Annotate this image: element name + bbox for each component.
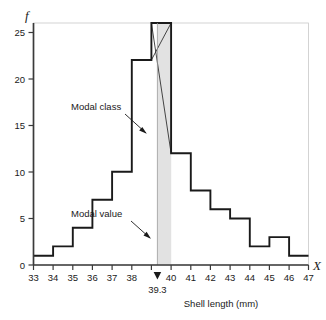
x-tick-41: 41 bbox=[186, 272, 197, 283]
x-tick-47: 47 bbox=[303, 272, 314, 283]
y-tick-20: 20 bbox=[14, 74, 25, 85]
x-axis-title: Shell length (mm) bbox=[184, 298, 258, 309]
y-tick-10: 10 bbox=[14, 167, 25, 178]
modal-value-label: Modal value bbox=[71, 208, 122, 219]
modal-value-tick-label: 39.3 bbox=[148, 284, 167, 295]
x-tick-35: 35 bbox=[68, 272, 79, 283]
y-tick-5: 5 bbox=[20, 213, 25, 224]
y-tick-25: 25 bbox=[14, 27, 25, 38]
x-tick-43: 43 bbox=[225, 272, 236, 283]
x-tick-37: 37 bbox=[107, 272, 118, 283]
x-tick-46: 46 bbox=[284, 272, 295, 283]
modal-band-shading bbox=[157, 23, 171, 265]
histogram-figure: 0 5 10 15 20 25 f 33 34 35 36 37 38 40 4… bbox=[0, 0, 326, 320]
x-tick-45: 45 bbox=[264, 272, 275, 283]
x-tick-38: 38 bbox=[127, 272, 138, 283]
y-tick-0: 0 bbox=[20, 260, 25, 271]
y-axis-tick-labels: 0 5 10 15 20 25 bbox=[14, 27, 25, 271]
modal-class-label: Modal class bbox=[71, 101, 121, 112]
x-tick-36: 36 bbox=[87, 272, 98, 283]
histogram-svg: 0 5 10 15 20 25 f 33 34 35 36 37 38 40 4… bbox=[0, 0, 326, 320]
x-axis-tick-labels: 33 34 35 36 37 38 40 41 42 43 44 45 46 4… bbox=[28, 272, 314, 283]
x-tick-40: 40 bbox=[166, 272, 177, 283]
modal-value-marker-icon bbox=[154, 272, 162, 280]
x-axis-label: X bbox=[312, 258, 322, 273]
x-tick-34: 34 bbox=[48, 272, 59, 283]
y-tick-15: 15 bbox=[14, 120, 25, 131]
x-tick-44: 44 bbox=[245, 272, 256, 283]
y-axis-label: f bbox=[25, 8, 31, 23]
x-tick-42: 42 bbox=[205, 272, 216, 283]
x-tick-33: 33 bbox=[28, 272, 39, 283]
